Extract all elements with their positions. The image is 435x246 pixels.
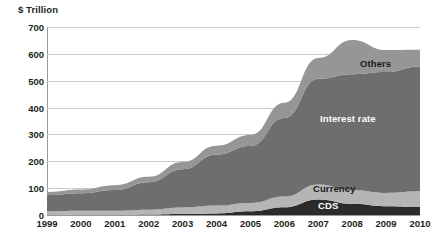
series-label-cds: CDS: [318, 200, 338, 211]
stacked-area-chart: $ Trillion 0100200300400500600700 199920…: [0, 0, 435, 246]
x-axis-tick-labels: 1999200020012002200320042005200620072008…: [47, 218, 420, 238]
gridline-0: [47, 215, 420, 216]
x-tick-label-1999: 1999: [36, 218, 57, 229]
x-tick-label-2005: 2005: [240, 218, 261, 229]
series-label-currency: Currency: [313, 183, 356, 194]
x-tick-label-2007: 2007: [308, 218, 329, 229]
y-tick-label-600: 600: [2, 48, 44, 59]
x-tick-label-2001: 2001: [104, 218, 125, 229]
y-tick-label-100: 100: [2, 183, 44, 194]
y-tick-label-500: 500: [2, 75, 44, 86]
y-tick-label-700: 700: [2, 22, 44, 33]
y-tick-label-200: 200: [2, 156, 44, 167]
y-tick-label-300: 300: [2, 129, 44, 140]
x-tick-label-2006: 2006: [274, 218, 295, 229]
x-tick-label-2000: 2000: [70, 218, 91, 229]
y-axis-tick-labels: 0100200300400500600700: [0, 0, 44, 246]
x-tick-label-2004: 2004: [206, 218, 227, 229]
x-tick-label-2003: 2003: [172, 218, 193, 229]
x-tick-label-2002: 2002: [138, 218, 159, 229]
series-label-others: Others: [360, 58, 391, 69]
y-tick-label-400: 400: [2, 102, 44, 113]
x-tick-label-2008: 2008: [342, 218, 363, 229]
series-label-interest-rate: Interest rate: [320, 113, 376, 124]
x-tick-label-2010: 2010: [409, 218, 430, 229]
x-tick-label-2009: 2009: [376, 218, 397, 229]
